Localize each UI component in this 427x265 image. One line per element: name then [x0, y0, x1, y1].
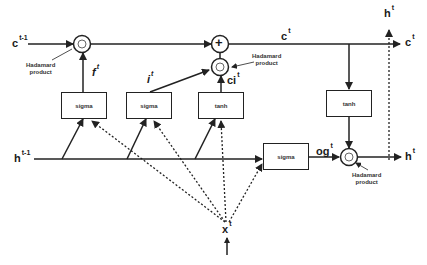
annotation-hadamard-2: Hadamardproduct — [252, 53, 281, 67]
label-og: ogt — [316, 145, 333, 157]
label-h-out: ht — [405, 150, 415, 162]
candidate-box: tanh — [198, 92, 244, 119]
annotation-hadamard-1: Hadamardproduct — [26, 62, 55, 76]
input-gate-box: sigma — [126, 92, 172, 119]
annotation-hadamard-3: Hadamardproduct — [352, 172, 381, 186]
h-to-input — [127, 119, 146, 159]
add-operator: + — [215, 35, 223, 50]
hadamard1-circle — [74, 36, 91, 53]
forget-gate-box: sigma — [61, 92, 107, 119]
x-to-forget — [92, 121, 225, 222]
x-to-output — [229, 164, 262, 222]
x-to-input — [154, 121, 225, 222]
label-f: ft — [92, 66, 99, 78]
hadamard3-pointer — [356, 163, 368, 170]
cell-tanh-box: tanh — [326, 90, 372, 117]
label-h-top: ht — [384, 7, 394, 19]
hadamard3-circle — [341, 149, 358, 166]
label-ci: cit — [227, 74, 240, 86]
label-x: xt — [222, 223, 231, 235]
output-gate-box: sigma — [263, 143, 309, 170]
label-c-top: ct — [281, 30, 290, 42]
x-to-candidate — [221, 121, 226, 222]
hadamard2-circle — [212, 59, 229, 76]
hadamard2-pointer — [232, 62, 254, 67]
h-to-forget — [62, 119, 83, 159]
label-c-out: ct — [405, 36, 414, 48]
label-i: it — [147, 73, 153, 85]
hadamard1-pointer — [52, 49, 72, 60]
label-h-prev: ht-1 — [14, 152, 30, 164]
h-to-candidate — [195, 119, 215, 159]
label-c-prev: ct-1 — [12, 37, 28, 49]
input-arrow — [150, 70, 209, 92]
diagram-connections — [0, 0, 427, 265]
lstm-diagram: + sigma sigma tanh tanh sigma ct-1 ht-1 … — [0, 0, 427, 265]
